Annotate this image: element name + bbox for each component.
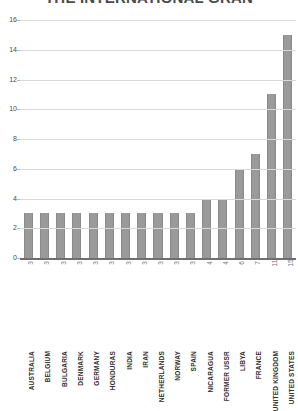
y-tick-label: 6 bbox=[1, 165, 17, 172]
x-label-column: 3NORWAY bbox=[166, 259, 182, 353]
x-tick-label: SPAIN bbox=[190, 351, 197, 371]
x-label-column: 7FRANCE bbox=[247, 259, 263, 353]
x-tick-label: HONDURAS bbox=[109, 351, 116, 390]
y-tick-label: 12 bbox=[1, 76, 17, 83]
bar[interactable] bbox=[186, 213, 195, 258]
gridline bbox=[20, 139, 296, 140]
x-label-column: 3IRAN bbox=[134, 259, 150, 353]
x-axis-labels: 3AUSTRALIA3BELGIUM3BULGARIA3DENMARK3GERM… bbox=[20, 259, 296, 353]
x-tick-label: NICARAGUA bbox=[207, 351, 214, 393]
bar-value-label: 3 bbox=[126, 261, 133, 265]
x-tick-label: BULGARIA bbox=[61, 351, 68, 387]
x-label-column: 11UNITED KINGDOM bbox=[264, 259, 280, 353]
bar[interactable] bbox=[105, 213, 114, 258]
y-tick-mark bbox=[17, 80, 20, 81]
x-label-column: 3BELGIUM bbox=[36, 259, 52, 353]
x-tick-label: NORWAY bbox=[174, 351, 181, 381]
bar[interactable] bbox=[235, 169, 244, 258]
gridline bbox=[20, 199, 296, 200]
x-tick-label: NETHERLANDS bbox=[158, 351, 165, 402]
gridline bbox=[20, 228, 296, 229]
bar[interactable] bbox=[72, 213, 81, 258]
y-tick-mark bbox=[17, 258, 20, 259]
bar-value-label: 3 bbox=[44, 261, 51, 265]
y-tick-mark bbox=[17, 139, 20, 140]
x-label-column: 3HONDURAS bbox=[101, 259, 117, 353]
x-tick-label: LIBYA bbox=[239, 351, 246, 371]
bar-value-label: 11 bbox=[272, 260, 279, 267]
gridline bbox=[20, 80, 296, 81]
x-tick-label: INDIA bbox=[126, 351, 133, 370]
x-tick-label: AUSTRALIA bbox=[28, 351, 35, 390]
bar-value-label: 3 bbox=[158, 261, 165, 265]
y-tick-label: 2 bbox=[1, 224, 17, 231]
chart-title: THE INTERNATIONAL GRAN bbox=[0, 0, 298, 6]
bar-value-label: 3 bbox=[28, 261, 35, 265]
bar-value-label: 4 bbox=[207, 261, 214, 265]
plot-area bbox=[20, 20, 296, 258]
bar-value-label: 3 bbox=[174, 261, 181, 265]
bar[interactable] bbox=[40, 213, 49, 258]
bar[interactable] bbox=[153, 213, 162, 258]
x-tick-label: FRANCE bbox=[255, 351, 262, 379]
x-label-column: 3INDIA bbox=[117, 259, 133, 353]
x-tick-label: FORMER USSR bbox=[223, 351, 230, 401]
y-axis: 0246810121416 bbox=[0, 20, 17, 258]
gridline bbox=[20, 169, 296, 170]
bar-value-label: 3 bbox=[109, 261, 116, 265]
bar[interactable] bbox=[137, 213, 146, 258]
bar-value-label: 3 bbox=[190, 261, 197, 265]
bar-value-label: 6 bbox=[239, 261, 246, 265]
y-tick-mark bbox=[17, 169, 20, 170]
bar-value-label: 3 bbox=[93, 261, 100, 265]
x-label-column: 3BULGARIA bbox=[52, 259, 68, 353]
y-tick-mark bbox=[17, 199, 20, 200]
x-tick-label: DENMARK bbox=[77, 351, 84, 386]
x-label-column: 3DENMARK bbox=[69, 259, 85, 353]
bar-value-label: 3 bbox=[77, 261, 84, 265]
bar-value-label: 7 bbox=[255, 261, 262, 265]
y-tick-label: 4 bbox=[1, 195, 17, 202]
y-tick-mark bbox=[17, 50, 20, 51]
y-tick-mark bbox=[17, 109, 20, 110]
x-label-column: 3GERMANY bbox=[85, 259, 101, 353]
bar[interactable] bbox=[56, 213, 65, 258]
gridline bbox=[20, 109, 296, 110]
bar[interactable] bbox=[89, 213, 98, 258]
y-tick-label: 14 bbox=[1, 46, 17, 53]
x-label-column: 3AUSTRALIA bbox=[20, 259, 36, 353]
y-tick-label: 16 bbox=[1, 16, 17, 23]
bar[interactable] bbox=[170, 213, 179, 258]
bar-value-label: 3 bbox=[61, 261, 68, 265]
bar-value-label: 3 bbox=[142, 261, 149, 265]
bar[interactable] bbox=[267, 94, 276, 258]
bar-value-label: 4 bbox=[223, 261, 230, 265]
x-tick-label: IRAN bbox=[142, 351, 149, 368]
y-tick-label: 10 bbox=[1, 105, 17, 112]
x-tick-label: GERMANY bbox=[93, 351, 100, 386]
x-label-column: 15UNITED STATES bbox=[280, 259, 296, 353]
x-tick-label: UNITED KINGDOM bbox=[272, 351, 279, 411]
gridline bbox=[20, 20, 296, 21]
x-label-column: 6LIBYA bbox=[231, 259, 247, 353]
bar[interactable] bbox=[283, 35, 292, 258]
y-tick-label: 0 bbox=[1, 254, 17, 261]
y-tick-mark bbox=[17, 228, 20, 229]
x-label-column: 4NICARAGUA bbox=[199, 259, 215, 353]
x-label-column: 3NETHERLANDS bbox=[150, 259, 166, 353]
y-tick-mark bbox=[17, 20, 20, 21]
bar[interactable] bbox=[121, 213, 130, 258]
gridline bbox=[20, 50, 296, 51]
x-tick-label: UNITED STATES bbox=[288, 351, 295, 404]
x-label-column: 3SPAIN bbox=[182, 259, 198, 353]
y-tick-label: 8 bbox=[1, 135, 17, 142]
bar[interactable] bbox=[24, 213, 33, 258]
x-tick-label: BELGIUM bbox=[44, 351, 51, 382]
x-label-column: 4FORMER USSR bbox=[215, 259, 231, 353]
bar-value-label: 15 bbox=[288, 259, 295, 266]
